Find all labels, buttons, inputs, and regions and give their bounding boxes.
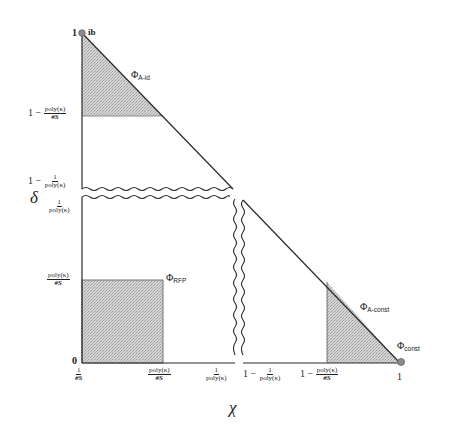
wavy-break-right-vertical: [242, 200, 245, 355]
wavy-break-left-vertical: [234, 199, 237, 355]
point-ib-label: ib: [88, 28, 96, 37]
region-a-const-label: ΦA-const: [360, 302, 389, 314]
point-const: [397, 358, 404, 365]
fraction: 1poly(κ): [48, 199, 71, 215]
x-axis-label: χ: [229, 398, 236, 418]
y-tick-one: 1: [72, 28, 77, 38]
y-tick-zero: 0: [72, 356, 77, 366]
y-tick-poly-s: poly(κ)#S: [47, 272, 70, 288]
fraction: 1poly(κ): [205, 367, 228, 383]
fraction: poly(κ)#S: [44, 106, 67, 122]
region-subscript: const: [404, 345, 420, 352]
diagonal-lower: [243, 200, 400, 363]
tick-prefix: 1 −: [28, 107, 41, 118]
fraction-denominator: poly(κ): [259, 375, 282, 382]
fraction-denominator: poly(κ): [48, 207, 71, 214]
region-subscript: A-const: [367, 306, 389, 313]
y-tick-one-minus-poly-s: 1 − poly(κ)#S: [28, 106, 66, 122]
x-tick-inv-s: 1#S: [74, 367, 83, 383]
wavy-break-upper: [82, 188, 233, 191]
tick-prefix: 1 −: [28, 175, 41, 186]
region-subscript: RFP: [173, 277, 186, 284]
x-tick-poly-s: poly(κ)#S: [148, 367, 171, 383]
fraction-denominator: #S: [50, 114, 59, 121]
x-tick-one-minus-inv-poly: 1 − 1poly(κ): [243, 367, 281, 383]
fraction: poly(κ)#S: [316, 367, 339, 383]
point-ib: [79, 30, 86, 37]
region-a-id-label: ΦA-id: [131, 70, 150, 82]
fraction: 1#S: [74, 367, 83, 383]
tick-prefix: 1 −: [300, 368, 313, 379]
fraction-denominator: #S: [74, 375, 83, 382]
fraction-denominator: #S: [322, 375, 331, 382]
x-tick-one-minus-poly-s: 1 − poly(κ)#S: [300, 367, 338, 383]
region-rfp-shade: [82, 280, 163, 363]
fraction: poly(κ)#S: [148, 367, 171, 383]
region-rfp-label: ΦRFP: [166, 273, 186, 285]
fraction-denominator: poly(κ): [44, 182, 67, 189]
x-tick-one: 1: [397, 372, 402, 382]
fraction: 1poly(κ): [259, 367, 282, 383]
y-axis-label: δ: [30, 188, 38, 208]
tick-prefix: 1 −: [243, 368, 256, 379]
region-const-label: Φconst: [397, 341, 420, 353]
x-tick-inv-poly: 1poly(κ): [205, 367, 228, 383]
wavy-break-lower: [82, 196, 229, 199]
region-subscript: A-id: [138, 74, 150, 81]
fraction-denominator: #S: [54, 280, 63, 287]
y-tick-inv-poly: 1poly(κ): [48, 199, 71, 215]
fraction-denominator: #S: [155, 375, 164, 382]
fraction: 1poly(κ): [44, 174, 67, 190]
fraction: poly(κ)#S: [47, 272, 70, 288]
fraction-denominator: poly(κ): [205, 375, 228, 382]
